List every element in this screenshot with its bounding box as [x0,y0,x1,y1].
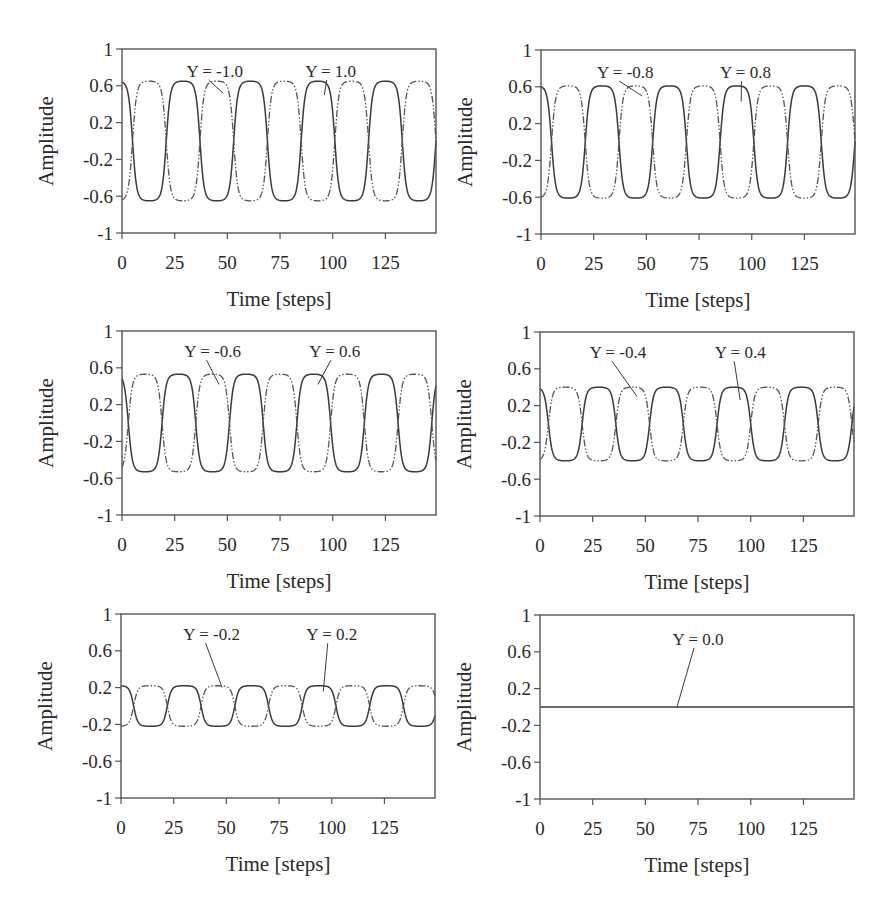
series-line-Y0-8 [541,86,855,198]
line-chart: 10.60.2-0.2-0.6-10255075100125Time [step… [419,21,863,304]
y-tick-label: 0.6 [89,75,113,96]
x-tick-label: 25 [584,253,603,274]
y-tick-label: -1 [97,223,113,244]
y-tick-label: 1 [523,40,533,61]
x-tick-label: 50 [636,535,655,556]
x-tick-label: 125 [371,252,400,273]
x-tick-label: 25 [583,818,602,839]
series-line-Y0-6 [122,374,436,472]
y-axis-title: Amplitude [34,378,58,468]
y-axis-title: Amplitude [452,379,476,469]
x-tick-label: 0 [116,817,126,838]
y-tick-label: 1 [103,604,113,625]
x-tick-label: 100 [317,817,346,838]
series-line-Y1-0 [122,81,436,201]
subplot-y-0-4: 10.60.2-0.2-0.6-10255075100125Time [step… [418,303,862,586]
x-tick-label: 25 [165,534,184,555]
x-tick-label: 25 [164,817,183,838]
x-tick-label: 50 [218,252,237,273]
x-tick-label: 0 [535,535,545,556]
y-tick-label: -0.6 [83,186,113,207]
y-tick-label: 0.2 [507,678,531,699]
series-annotation: Y = -0.4 [590,343,647,362]
x-tick-label: 50 [636,818,655,839]
subplot-y-0-6: 10.60.2-0.2-0.6-10255075100125Time [step… [0,302,444,585]
y-tick-label: 0.6 [507,641,531,662]
subplot-y-1-0: 10.60.2-0.2-0.6-10255075100125Time [step… [0,20,444,303]
x-tick-label: 100 [736,535,765,556]
series-annotation: Y = -0.8 [597,63,654,82]
y-tick-label: -0.2 [83,431,113,452]
y-axis-title: Amplitude [453,97,477,187]
y-tick-label: 0.2 [88,677,112,698]
x-tick-label: 75 [690,253,709,274]
x-axis-title: Time [steps] [645,853,750,877]
x-tick-label: 75 [689,818,708,839]
x-tick-label: 50 [217,817,236,838]
series-line-Y-0-6 [122,374,436,472]
x-tick-label: 50 [637,253,656,274]
series-annotation: Y = 0.4 [715,343,766,362]
line-chart: 10.60.2-0.2-0.6-10255075100125Time [step… [418,586,862,869]
series-annotation: Y = -0.2 [183,625,240,644]
x-tick-label: 0 [536,253,546,274]
x-tick-label: 0 [117,534,127,555]
x-tick-label: 75 [689,535,708,556]
y-tick-label: -0.6 [501,469,531,490]
series-annotation: Y = -0.6 [184,342,241,361]
x-tick-label: 100 [318,252,347,273]
y-axis-title: Amplitude [452,662,476,752]
y-tick-label: 1 [522,605,532,626]
x-tick-label: 125 [370,817,399,838]
line-chart: 10.60.2-0.2-0.6-10255075100125Time [step… [418,303,862,586]
annotation-leader-line [619,81,642,96]
x-tick-label: 75 [270,817,289,838]
series-annotation: Y = 0.6 [309,342,360,361]
y-axis-title: Amplitude [33,661,57,751]
series-annotation: Y = 1.0 [305,62,356,81]
y-tick-label: 0.6 [88,640,112,661]
x-tick-label: 50 [218,534,237,555]
annotation-leader-line [677,648,694,707]
annotation-leader-line [734,361,740,400]
y-tick-label: -0.2 [502,150,532,171]
series-line-Y-0-4 [540,387,854,461]
y-tick-label: 0.6 [89,357,113,378]
y-axis-title: Amplitude [34,96,58,186]
y-tick-label: 0.2 [89,394,113,415]
series-line-Y0-2 [121,686,435,726]
series-annotation: Y = 0.8 [720,63,771,82]
line-chart: 10.60.2-0.2-0.6-10255075100125Time [step… [0,302,444,585]
y-tick-label: -0.2 [501,715,531,736]
x-tick-label: 125 [789,818,818,839]
plot-frame [122,49,436,233]
y-tick-label: -0.6 [82,751,112,772]
y-tick-label: -0.6 [501,752,531,773]
x-tick-label: 100 [737,253,766,274]
y-tick-label: -0.6 [83,468,113,489]
y-tick-label: 0.2 [89,112,113,133]
x-tick-label: 125 [371,534,400,555]
y-tick-label: 0.6 [508,76,532,97]
x-tick-label: 25 [583,535,602,556]
series-annotation: Y = 0.2 [306,625,357,644]
x-tick-label: 125 [789,535,818,556]
series-annotation: Y = 0.0 [673,630,724,649]
y-tick-label: 0.6 [507,358,531,379]
subplot-y-0-2: 10.60.2-0.2-0.6-10255075100125Time [step… [0,585,443,868]
y-tick-label: 0.2 [507,395,531,416]
y-tick-label: 1 [104,321,114,342]
y-tick-label: 0.2 [508,113,532,134]
annotation-leader-line [323,643,327,691]
x-tick-label: 75 [271,534,290,555]
annotation-leader-line [612,361,637,396]
subplot-y-0-0: 10.60.2-0.2-0.6-10255075100125Time [step… [418,586,862,869]
y-tick-label: -0.2 [501,432,531,453]
x-tick-label: 125 [790,253,819,274]
annotation-leader-line [206,643,223,687]
x-tick-label: 0 [117,252,127,273]
x-tick-label: 0 [535,818,545,839]
subplot-y-0-8: 10.60.2-0.2-0.6-10255075100125Time [step… [419,21,863,304]
x-tick-label: 25 [165,252,184,273]
y-tick-label: 1 [104,39,114,60]
